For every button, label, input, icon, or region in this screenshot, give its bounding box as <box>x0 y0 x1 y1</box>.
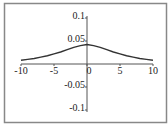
x-tick-label: 10 <box>148 65 158 76</box>
chart: -10-50510 0.10.05-0.05-0.1 <box>0 0 168 126</box>
x-tick-label: -10 <box>14 65 27 76</box>
y-ticks: 0.10.05-0.05-0.1 <box>64 10 87 113</box>
x-tick-label: -5 <box>50 65 58 76</box>
y-tick-label: 0.05 <box>68 33 86 44</box>
y-tick-label: -0.05 <box>64 79 85 90</box>
chart-frame <box>5 4 167 123</box>
y-tick-label: -0.1 <box>69 102 85 113</box>
x-tick-label: 5 <box>118 65 123 76</box>
x-tick-label: 0 <box>87 65 92 76</box>
y-tick-label: 0.1 <box>73 10 86 21</box>
x-ticks: -10-50510 <box>14 64 158 76</box>
